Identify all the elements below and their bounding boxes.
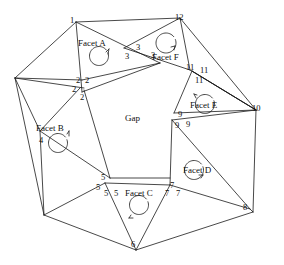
outer-bottom-right (136, 212, 253, 250)
facet-f-rotation-arrow (156, 33, 176, 53)
vertex-label-5-17: 5 (101, 173, 105, 182)
vertex-label-5-19: 5 (104, 189, 108, 198)
vertex-label-9-13: 9 (178, 110, 182, 119)
facet-a-rotation-arrow (90, 47, 109, 66)
vertex-label-11-5: 11 (186, 63, 194, 72)
bottom-right-corner (250, 209, 253, 212)
vertex-label-11-6: 11 (200, 66, 208, 75)
arrow-c-head (129, 215, 133, 218)
vertex-label-5-18: 5 (96, 183, 100, 192)
facet-b-right (84, 90, 110, 178)
facet-e-label: Facet E (190, 101, 217, 110)
vertex-label-3-3: 3 (125, 52, 129, 61)
edge-group (15, 18, 256, 250)
facet-f-label: Facet F (152, 53, 179, 62)
facet-b-label: Facet B (36, 124, 64, 133)
facet-c-top (105, 183, 170, 185)
vertex-label-4-16: 4 (39, 136, 43, 145)
outer-left-lower (15, 78, 44, 215)
facet-b-base (40, 131, 110, 178)
vertex-label-12-1: 12 (175, 13, 184, 22)
vertex-label-9-15: 9 (186, 120, 190, 129)
arrow-f-head (171, 46, 175, 50)
vertex-label-6-25: 6 (131, 240, 135, 249)
outer-right (253, 110, 256, 212)
facet-c-label: Facet C (125, 189, 153, 198)
vertex-label-8-24: 8 (243, 203, 247, 212)
vertex-label-9-14: 9 (175, 121, 179, 130)
vertex-label-2-11: 2 (72, 85, 76, 94)
gap-label: Gap (125, 114, 140, 123)
facet-f-left (124, 18, 180, 48)
facet-d-base (170, 185, 250, 209)
facet-d-left (170, 120, 172, 185)
facet-d-label: Facet D (183, 166, 211, 175)
arrow-e-head (194, 94, 197, 98)
arrow-b-head (67, 131, 69, 136)
outer-1-to-topright (76, 18, 180, 22)
facet-c-rotation-arrow (130, 196, 149, 215)
vertex-label-2-10: 2 (85, 76, 89, 85)
facet-unfolding-diagram: Facet AFacet BFacet CFacet DFacet EFacet… (0, 0, 284, 265)
vertex-label-7-22: 7 (165, 189, 169, 198)
vertex-label-2-12: 2 (80, 93, 84, 102)
vertex-label-3-4: 3 (151, 51, 155, 60)
outer-left-upper (15, 22, 76, 78)
vertex-label-1-0: 1 (70, 16, 74, 25)
vertex-label-7-23: 7 (176, 189, 180, 198)
vertex-label-7-21: 7 (170, 181, 174, 190)
vertex-label-5-20: 5 (114, 189, 118, 198)
vertex-label-11-7: 11 (195, 76, 203, 85)
vertex-label-10-8: 10 (252, 104, 261, 113)
vertex-label-2-9: 2 (76, 76, 80, 85)
vertex-label-3-2: 3 (136, 43, 140, 52)
facet-a-label: Facet A (78, 39, 106, 48)
